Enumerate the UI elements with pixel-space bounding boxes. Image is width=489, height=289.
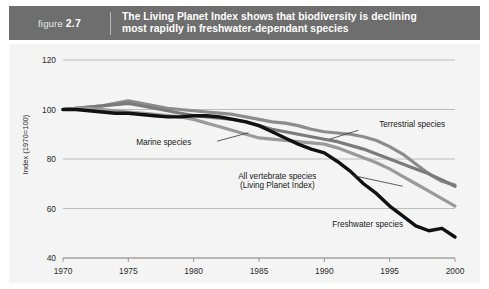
y-axis-tick-40: 40 <box>47 253 57 263</box>
annotation-label-4: Freshwater species <box>332 220 403 229</box>
figure-container: figure 2.7 The Living Planet Index shows… <box>0 0 489 289</box>
x-axis-tick-1995: 1995 <box>380 266 399 276</box>
y-axis-tick-60: 60 <box>47 204 57 214</box>
y-axis-tick-80: 80 <box>47 154 57 164</box>
line-chart-plot: 4060801001201970197519801985199019952000… <box>9 44 480 283</box>
figure-title: The Living Planet Index shows that biodi… <box>111 11 417 36</box>
annotation-label-3-line-1: All vertebrate species <box>238 172 316 181</box>
x-axis-tick-2000: 2000 <box>446 266 465 276</box>
x-axis-tick-1985: 1985 <box>250 266 269 276</box>
annotation-leader-line-2 <box>217 133 248 141</box>
x-axis-tick-1970: 1970 <box>54 266 73 276</box>
figure-header: figure 2.7 The Living Planet Index shows… <box>9 6 480 40</box>
y-axis-tick-100: 100 <box>42 105 56 115</box>
figure-label-prefix: figure <box>38 18 63 29</box>
figure-label-number: 2.7 <box>66 17 81 29</box>
annotation-label-2: Marine species <box>136 138 191 147</box>
x-axis-tick-1990: 1990 <box>315 266 334 276</box>
x-axis-tick-1980: 1980 <box>184 266 203 276</box>
x-axis-tick-1975: 1975 <box>119 266 138 276</box>
annotation-label-1: Terrestrial species <box>379 120 445 129</box>
annotation-label-3-line-2: (Living Planet Index) <box>240 181 315 190</box>
figure-number-label: figure 2.7 <box>9 17 110 29</box>
figure-title-line-2: most rapidly in freshwater-dependant spe… <box>122 23 417 35</box>
y-axis-tick-120: 120 <box>42 55 56 65</box>
figure-title-line-1: The Living Planet Index shows that biodi… <box>122 11 417 22</box>
chart-area: Index (1970=100) 40608010012019701975198… <box>9 44 480 283</box>
